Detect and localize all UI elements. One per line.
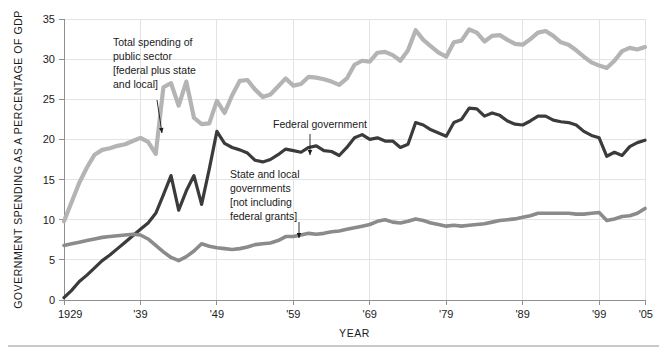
x-tick-label: '89 <box>516 308 530 320</box>
government-spending-line-chart: 05101520253035 1929'39'49'59'69'79'89'99… <box>0 0 667 357</box>
annotation-arrowhead-federal-government <box>308 150 312 155</box>
annotation-federal-government: Federal government <box>273 118 367 130</box>
x-axis-title: YEAR <box>339 327 370 339</box>
y-tick-label: 20 <box>43 133 55 145</box>
chart-figure: 05101520253035 1929'39'49'59'69'79'89'99… <box>0 0 667 357</box>
annotation-total-spending: Total spending ofpublic sector[federal p… <box>113 36 196 90</box>
series-line <box>64 108 645 297</box>
series-line <box>64 208 645 260</box>
y-tick-label: 25 <box>43 93 55 105</box>
x-tick-label: '59 <box>286 308 300 320</box>
y-axis-title: GOVERNMENT SPENDING AS A PERCENTAGE OF G… <box>12 10 24 309</box>
y-tick-label: 35 <box>43 13 55 25</box>
y-tick-label: 30 <box>43 53 55 65</box>
x-tick-label: '69 <box>363 308 377 320</box>
x-tick-label: '99 <box>592 308 606 320</box>
x-tick-labels: 1929'39'49'59'69'79'89'99'05 <box>58 308 653 320</box>
y-tick-label: 0 <box>49 294 55 306</box>
chart-annotations: Total spending ofpublic sector[federal p… <box>113 36 367 238</box>
y-tick-label: 5 <box>49 254 55 266</box>
y-tick-label: 10 <box>43 214 55 226</box>
x-tick-label: '39 <box>133 308 147 320</box>
x-tick-label: 1929 <box>58 308 82 320</box>
y-tick-labels: 05101520253035 <box>43 13 55 306</box>
x-tick-label: '05 <box>639 308 653 320</box>
y-tick-label: 15 <box>43 174 55 186</box>
annotation-state-local: State and localgovernments[not including… <box>230 168 299 222</box>
x-tick-label: '49 <box>210 308 224 320</box>
x-tick-label: '79 <box>439 308 453 320</box>
